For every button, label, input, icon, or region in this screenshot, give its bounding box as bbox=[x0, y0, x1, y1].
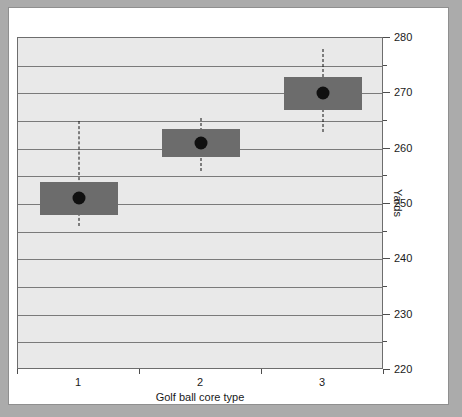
x-axis-tick bbox=[261, 369, 262, 374]
chart-card: 220230240250260270280 Yards 123 Golf bal… bbox=[8, 7, 449, 405]
x-axis-tick-label: 1 bbox=[75, 377, 81, 388]
y-axis-minor-tick bbox=[383, 65, 387, 66]
data-point-marker bbox=[73, 192, 86, 205]
x-axis: 123 bbox=[17, 369, 383, 375]
data-point-marker bbox=[195, 137, 208, 150]
y-axis-tick bbox=[383, 258, 390, 259]
y-axis-tick bbox=[383, 92, 390, 93]
x-axis-tick bbox=[383, 369, 384, 374]
box-plot-group bbox=[39, 38, 119, 368]
x-axis-tick bbox=[139, 369, 140, 374]
y-axis-tick bbox=[383, 203, 390, 204]
y-axis-tick bbox=[383, 314, 390, 315]
y-axis-minor-tick bbox=[383, 341, 387, 342]
y-axis-tick bbox=[383, 369, 390, 370]
x-axis-tick-label: 3 bbox=[319, 377, 325, 388]
x-axis-tick bbox=[17, 369, 18, 374]
x-axis-title: Golf ball core type bbox=[17, 391, 383, 403]
y-axis-tick bbox=[383, 37, 390, 38]
chart-figure: 220230240250260270280 Yards 123 Golf bal… bbox=[9, 8, 450, 406]
y-axis-tick bbox=[383, 148, 390, 149]
y-axis-title: Yards bbox=[390, 37, 406, 369]
data-point-marker bbox=[317, 87, 330, 100]
y-axis-minor-tick bbox=[383, 286, 387, 287]
y-axis-minor-tick bbox=[383, 120, 387, 121]
page-root: 220230240250260270280 Yards 123 Golf bal… bbox=[0, 0, 462, 417]
plot-area bbox=[17, 37, 383, 369]
x-axis-tick-label: 2 bbox=[197, 377, 203, 388]
y-axis-minor-tick bbox=[383, 231, 387, 232]
box-plot-group bbox=[283, 38, 363, 368]
y-axis-minor-tick bbox=[383, 175, 387, 176]
box-plot-group bbox=[161, 38, 241, 368]
